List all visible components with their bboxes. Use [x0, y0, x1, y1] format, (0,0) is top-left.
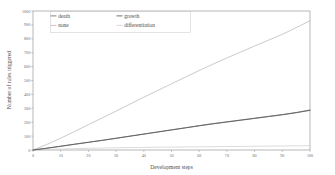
- y-tick-label: 500: [24, 78, 30, 83]
- x-tick-label: 50: [169, 153, 173, 158]
- y-tick-label: 900: [24, 22, 30, 27]
- x-tick-label: 70: [225, 153, 229, 158]
- chart-figure: 01002003004005006007008009001000 0102030…: [0, 0, 335, 175]
- legend-label-growth: growth: [124, 13, 140, 19]
- x-tick-label: 100: [307, 153, 313, 158]
- x-tick-label: 60: [197, 153, 201, 158]
- y-tick-label: 200: [24, 120, 30, 125]
- x-tick-label: 80: [253, 153, 257, 158]
- y-tick-label: 800: [24, 36, 30, 41]
- x-tick-label: 90: [280, 153, 284, 158]
- y-tick-label: 100: [24, 134, 30, 139]
- x-axis-title: Development steps: [150, 164, 193, 170]
- x-tick-label: 30: [114, 153, 118, 158]
- legend-label-differentiation: differentiation: [124, 22, 155, 28]
- y-tick-label: 0: [28, 148, 30, 153]
- legend-label-death: death: [58, 13, 70, 19]
- y-tick-label: 600: [24, 64, 30, 69]
- y-tick-label: 400: [24, 92, 30, 97]
- y-tick-label: 300: [24, 106, 30, 111]
- legend-label-none: none: [58, 22, 69, 28]
- x-tick-label: 10: [59, 153, 63, 158]
- y-axis-title: Number of rules triggered: [6, 51, 12, 109]
- y-tick-label: 700: [24, 50, 30, 55]
- x-tick-label: 20: [86, 153, 90, 158]
- x-tick-label: 40: [142, 153, 146, 158]
- y-tick-label: 1000: [22, 9, 30, 14]
- x-tick-label: 0: [32, 153, 34, 158]
- line-chart: 01002003004005006007008009001000 0102030…: [0, 0, 335, 175]
